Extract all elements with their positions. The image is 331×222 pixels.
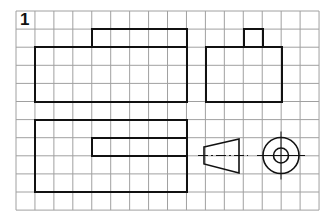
side-view-outline [206,47,282,102]
grid [16,11,319,210]
top-view-outline [92,138,187,156]
front-view-outline [92,29,187,47]
drawing-canvas [0,0,331,222]
circle-view [257,132,305,180]
side-view-outline [244,29,263,47]
exercise-number: 1 [20,11,29,28]
